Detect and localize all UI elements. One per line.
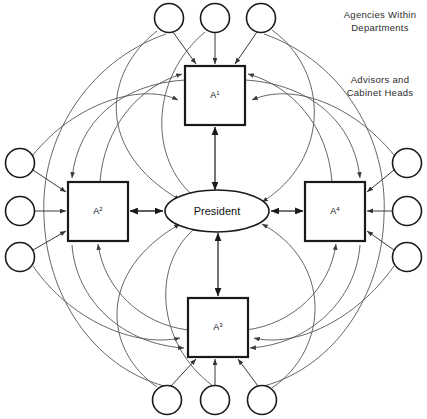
arc-a2-to-a1 bbox=[100, 74, 182, 182]
caption-agencies-line2: Departments bbox=[351, 22, 409, 33]
caption-advisors-line2: Cabinet Heads bbox=[347, 87, 414, 98]
circle-bottom-1[interactable] bbox=[153, 386, 182, 415]
arc-top1-to-president bbox=[116, 31, 180, 200]
circle-right-1[interactable] bbox=[393, 149, 422, 178]
arc-a1-to-a2 bbox=[72, 80, 185, 178]
circle-right-3[interactable] bbox=[393, 243, 422, 272]
leaf-top3-to-a1 bbox=[235, 32, 257, 64]
circle-left-3[interactable] bbox=[6, 243, 35, 272]
circle-right-2[interactable] bbox=[393, 197, 422, 226]
arc-a3-to-a4 bbox=[246, 244, 336, 330]
president-node[interactable]: President bbox=[165, 190, 269, 232]
arc-right1-to-a1 bbox=[252, 94, 394, 155]
arc-a1-to-a4 bbox=[245, 80, 360, 178]
leaf-right3-to-a4 bbox=[367, 231, 394, 250]
leaf-right1-to-a4 bbox=[367, 170, 394, 192]
leaf-bottom3-to-a3 bbox=[238, 359, 258, 386]
leaf-left3-to-a2 bbox=[33, 231, 66, 250]
circle-top-2[interactable] bbox=[201, 4, 230, 33]
president-label: President bbox=[194, 205, 240, 217]
leaf-top1-to-a1 bbox=[173, 32, 196, 64]
arc-bottom1-to-president bbox=[117, 224, 180, 387]
organization-diagram: A1 A2 A3 A4 President Agencies Within De… bbox=[0, 0, 427, 419]
arc-a4-to-a1 bbox=[248, 74, 332, 182]
circle-bottom-3[interactable] bbox=[248, 386, 277, 415]
circle-top-1[interactable] bbox=[155, 4, 184, 33]
caption-advisors-line1: Advisors and bbox=[351, 74, 410, 85]
circle-left-2[interactable] bbox=[6, 197, 35, 226]
diagram-page: A1 A2 A3 A4 President Agencies Within De… bbox=[0, 0, 427, 419]
arc-a2-to-a3 bbox=[72, 245, 184, 348]
caption-group: Agencies Within Departments Advisors and… bbox=[344, 9, 417, 98]
leaf-left1-to-a2 bbox=[33, 170, 66, 192]
circle-top-3[interactable] bbox=[247, 4, 276, 33]
arc-bottom3-to-president bbox=[262, 224, 315, 388]
circle-bottom-2[interactable] bbox=[201, 386, 230, 415]
leaf-bottom1-to-a3 bbox=[171, 359, 196, 386]
circle-left-1[interactable] bbox=[6, 149, 35, 178]
caption-agencies-line1: Agencies Within bbox=[344, 9, 417, 20]
arc-a3-to-a2 bbox=[98, 244, 188, 330]
